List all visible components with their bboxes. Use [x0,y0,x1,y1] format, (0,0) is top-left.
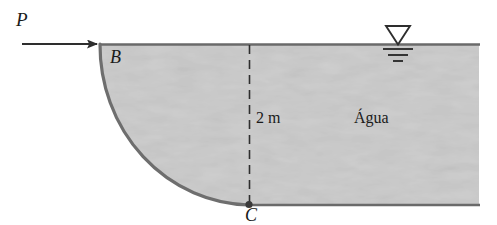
label-point-b: B [110,48,121,66]
water-region [100,44,479,205]
label-point-c: C [245,206,257,224]
label-fluid-agua: Água [354,110,389,126]
water-texture-overlay [100,44,479,205]
water-level-triangle [386,26,410,45]
label-force-p: P [16,10,28,29]
hydrostatics-diagram: P B C 2 m Água [0,0,497,225]
label-depth-dimension: 2 m [256,110,280,126]
diagram-canvas [0,0,497,225]
